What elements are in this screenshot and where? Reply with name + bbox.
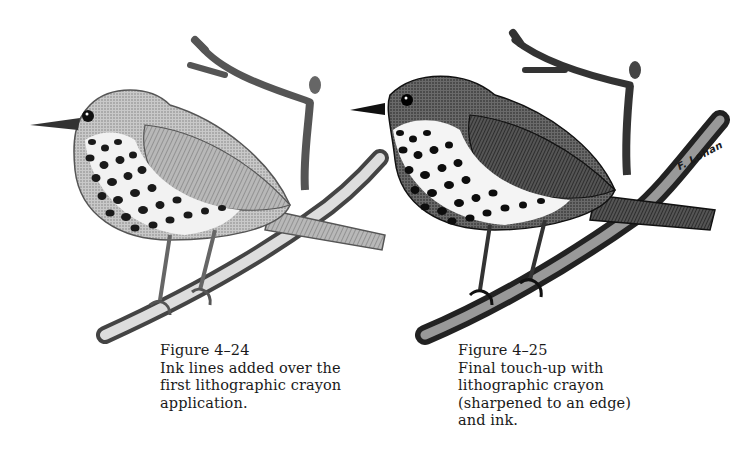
figure-4-25-illustration — [345, 25, 744, 355]
caption-line: and ink. — [458, 412, 668, 430]
caption-line: lithographic crayon — [458, 377, 668, 395]
figure-title: Figure 4–24 — [160, 342, 360, 360]
caption-line: Final touch-up with — [458, 360, 668, 378]
figure-title: Figure 4–25 — [458, 342, 668, 360]
figure-4-24-caption: Figure 4–24 Ink lines added over the fir… — [160, 342, 360, 412]
figure-4-25-caption: Figure 4–25 Final touch-up with lithogra… — [458, 342, 668, 430]
caption-line: first lithographic crayon — [160, 377, 360, 395]
thrush-dark-drawing — [345, 25, 744, 355]
figure-4-24-illustration — [20, 30, 400, 350]
caption-line: application. — [160, 395, 360, 413]
caption-line: (sharpened to an edge) — [458, 395, 668, 413]
caption-line: Ink lines added over the — [160, 360, 360, 378]
thrush-light-drawing — [20, 30, 400, 350]
